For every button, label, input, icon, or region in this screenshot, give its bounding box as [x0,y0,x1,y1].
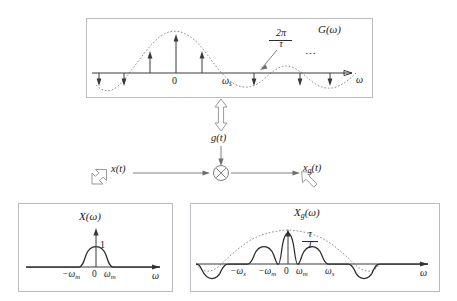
tick-pos-omega-m: ωm [296,267,308,278]
tick-pos-omega-m-base: ω [296,266,303,276]
tick-neg-omega-m: −ωm [258,267,276,278]
tick-pos-omega-s: ωs [325,267,334,278]
tick-neg-omega-m-sub: m [271,270,276,277]
tick-pos-omega-s-base: ω [325,266,332,276]
tick-neg-omega-m-base: −ω [258,266,271,276]
tick-pos-omega-m-sub: m [303,270,308,277]
tick-origin: 0 [284,267,289,277]
tick-pos-omega-s-sub: s [332,270,335,277]
tick-neg-omega-s-base: −ω [230,266,243,276]
sampled-amplitude-fraction: τ T [300,229,320,250]
amplitude-numerator: τ [300,229,320,240]
tick-neg-omega-s: −ωs [230,267,246,278]
amplitude-fraction-bar [302,241,318,242]
tick-neg-omega-s-sub: s [243,270,246,277]
bottom-right-graphics [0,0,457,301]
diagram-canvas: G(ω) [0,0,457,301]
sampled-axis-label: ω [420,268,427,278]
